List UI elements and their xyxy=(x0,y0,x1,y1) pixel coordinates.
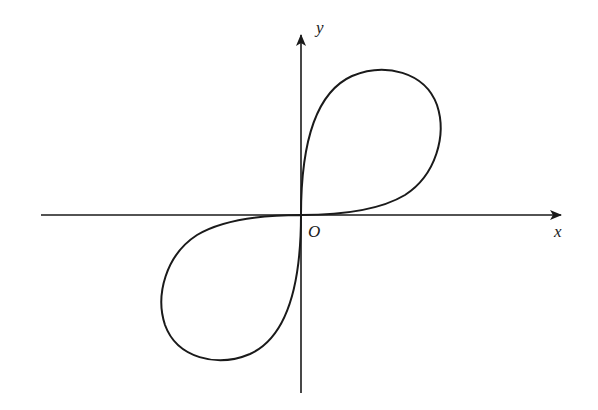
diagram-canvas xyxy=(0,0,598,410)
x-axis-label: x xyxy=(554,222,562,242)
upper-loop-curve xyxy=(301,70,441,215)
y-axis-label: y xyxy=(316,18,324,38)
lower-loop-curve xyxy=(161,215,301,360)
origin-label: O xyxy=(308,222,320,242)
